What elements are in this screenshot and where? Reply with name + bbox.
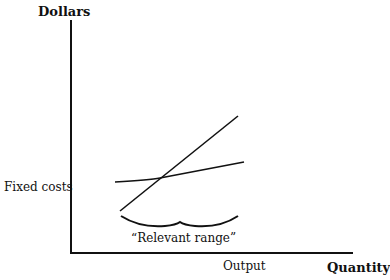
steep-line [120, 116, 238, 211]
output-label: Output [223, 259, 266, 273]
relevant-range-label: “Relevant range” [131, 231, 236, 245]
relevant-range-brace [121, 216, 238, 226]
x-axis-label: Quantity [327, 260, 390, 275]
y-axis-label: Dollars [38, 4, 90, 19]
shallow-curve [115, 162, 244, 182]
fixed-costs-label: Fixed costs [4, 180, 73, 194]
